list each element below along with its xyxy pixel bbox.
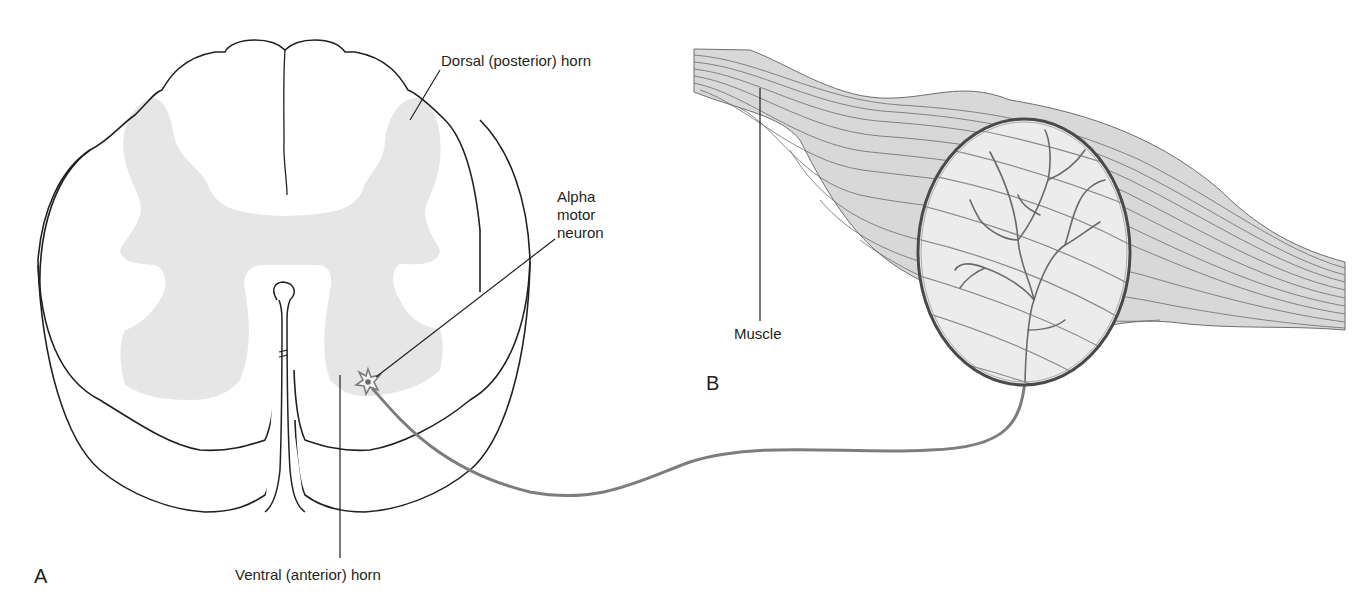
alpha-motor-neuron-label-line-2: motor: [557, 206, 604, 224]
cord-outline-left-upper: [38, 150, 90, 260]
alpha-motor-neuron-label-line-3: neuron: [557, 224, 604, 242]
cord-outline-right-upper: [480, 120, 530, 260]
alpha-motor-neuron-label-line-1: Alpha: [557, 188, 604, 206]
muscle-label: Muscle: [734, 325, 782, 343]
spinal-cord-muscle-diagram: [0, 0, 1358, 608]
panel-a-letter: A: [34, 565, 47, 587]
muscle-illustration: [694, 49, 1345, 400]
motor-axon: [372, 382, 1025, 496]
dorsal-horn-label: Dorsal (posterior) horn: [441, 52, 591, 70]
alpha-motor-neuron-label: Alpha motor neuron: [557, 188, 604, 242]
spinal-cord-cross-section: [38, 40, 530, 512]
ventral-horn-label: Ventral (anterior) horn: [235, 566, 381, 584]
dorsal-median-septum: [284, 50, 287, 195]
panel-b-letter: B: [706, 372, 719, 394]
central-canal: [265, 282, 305, 512]
